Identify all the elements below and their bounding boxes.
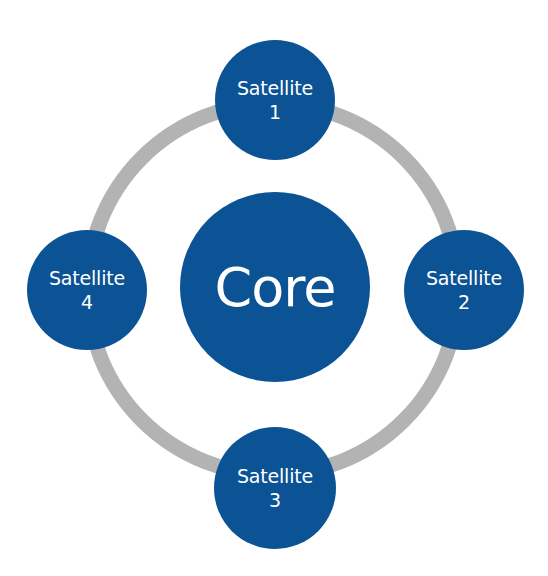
- satellite-3-label: Satellite: [237, 464, 313, 488]
- satellite-4-node: Satellite 4: [27, 230, 147, 350]
- satellite-2-node: Satellite 2: [404, 230, 524, 350]
- core-label: Core: [215, 256, 336, 319]
- satellite-2-label: Satellite: [426, 266, 502, 290]
- core-node: Core: [180, 192, 370, 382]
- satellite-3-number: 3: [269, 488, 281, 512]
- satellite-3-node: Satellite 3: [214, 427, 336, 549]
- satellite-4-number: 4: [81, 290, 93, 314]
- satellite-4-label: Satellite: [49, 266, 125, 290]
- satellite-2-number: 2: [458, 290, 470, 314]
- satellite-1-label: Satellite: [237, 76, 313, 100]
- satellite-1-number: 1: [269, 100, 281, 124]
- satellite-1-node: Satellite 1: [215, 40, 335, 160]
